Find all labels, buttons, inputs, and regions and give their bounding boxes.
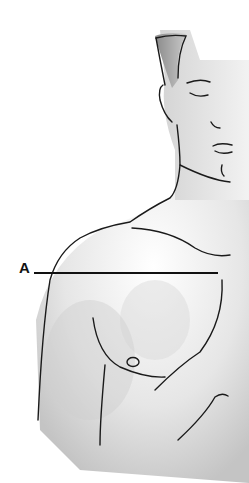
torso-shading <box>36 30 249 483</box>
label-a: A <box>19 260 30 275</box>
anatomy-illustration <box>0 0 249 483</box>
